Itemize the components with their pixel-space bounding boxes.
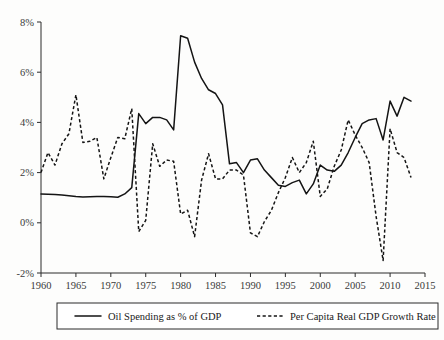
x-tick-label: 1965: [65, 280, 86, 291]
series-line-oil-spending: [41, 36, 411, 197]
x-tick-label: 1985: [205, 280, 226, 291]
x-tick-label: 1970: [100, 280, 121, 291]
series-line-gdp-growth: [41, 95, 411, 261]
legend-label-gdp-growth: Per Capita Real GDP Growth Rate: [290, 311, 436, 322]
x-tick-label: 1995: [275, 280, 296, 291]
x-axis-ticks: 1960196519701975198019851990199520002005…: [31, 273, 436, 291]
data-series-layer: [41, 36, 411, 261]
x-tick-label: 1960: [31, 280, 52, 291]
x-tick-label: 2005: [345, 280, 366, 291]
y-tick-label: 0%: [20, 217, 34, 228]
x-tick-label: 1975: [135, 280, 156, 291]
y-tick-label: 4%: [20, 117, 34, 128]
chart-figure: -2%0%2%4%6%8% 19601965197019751980198519…: [0, 0, 444, 340]
y-axis-ticks: -2%0%2%4%6%8%: [17, 17, 42, 279]
x-tick-label: 2015: [415, 280, 436, 291]
legend-label-oil-spending: Oil Spending as % of GDP: [108, 311, 222, 322]
y-tick-label: 8%: [20, 17, 34, 28]
x-tick-label: 2000: [310, 280, 331, 291]
x-tick-label: 2010: [380, 280, 401, 291]
y-tick-label: 6%: [20, 67, 34, 78]
y-tick-label: 2%: [20, 167, 34, 178]
line-chart: -2%0%2%4%6%8% 19601965197019751980198519…: [0, 0, 444, 340]
y-tick-label: -2%: [17, 268, 35, 279]
chart-legend: Oil Spending as % of GDPPer Capita Real …: [57, 303, 438, 329]
x-tick-label: 1990: [240, 280, 261, 291]
x-tick-label: 1980: [170, 280, 191, 291]
